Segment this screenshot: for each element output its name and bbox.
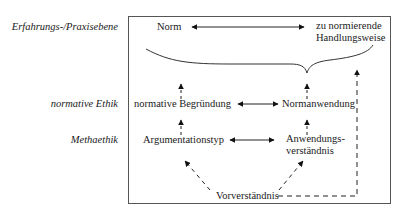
pre-to-understanding-arrow (279, 161, 303, 190)
node-argument-type: Argumentationstyp (143, 134, 224, 146)
diagram-frame (129, 17, 391, 204)
node-preunderstanding: Vorverständnis (216, 190, 279, 202)
node-normative-justification: normative Begründung (134, 98, 231, 110)
node-understanding-line2: verständnis (286, 145, 334, 157)
level-label-metaethics: Methaethik (71, 134, 118, 146)
pre-to-argtype-arrow (185, 161, 210, 190)
node-norm: Norm (157, 21, 182, 33)
node-understanding-line1: Anwendungs- (286, 133, 345, 145)
level-label-experience: Erfahrungs-/Praxisebene (12, 21, 118, 33)
node-norm-application: Normanwendung (282, 98, 355, 110)
level-label-normative-ethics: normative Ethik (51, 98, 118, 110)
node-action-line1: zu normierende (316, 20, 382, 32)
node-action-line2: Handlungsweise (316, 32, 385, 44)
curly-brace (146, 45, 373, 73)
